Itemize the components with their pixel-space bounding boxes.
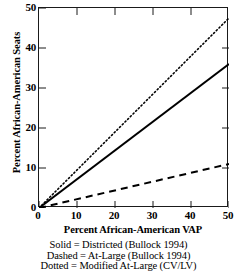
figure: 0 10 20 30 40 50: [0, 0, 237, 274]
x-tick-label: 10: [61, 210, 91, 221]
x-tick-label: 0: [23, 210, 53, 221]
x-axis-ticks-top: [77, 8, 191, 15]
x-axis-title: Percent African-American VAP: [38, 224, 228, 235]
caption-line-solid: Solid = Districted (Bullock 1994): [0, 240, 237, 251]
chart-caption: Solid = Districted (Bullock 1994) Dashed…: [0, 240, 237, 272]
plot-area: [38, 7, 228, 207]
y-axis-ticks: [39, 8, 46, 208]
x-axis-tick-labels: 0 10 20 30 40 50: [38, 210, 228, 224]
x-tick-label: 40: [175, 210, 205, 221]
plot-canvas: [39, 8, 229, 208]
caption-line-dotted: Dotted = Modified At-Large (CV/LV): [0, 261, 237, 272]
x-tick-label: 30: [137, 210, 167, 221]
series-line-modified-at-large: [39, 18, 229, 208]
x-tick-label: 50: [213, 210, 237, 221]
y-axis-title: Percent African-American Seats: [11, 3, 22, 203]
x-tick-label: 20: [99, 210, 129, 221]
